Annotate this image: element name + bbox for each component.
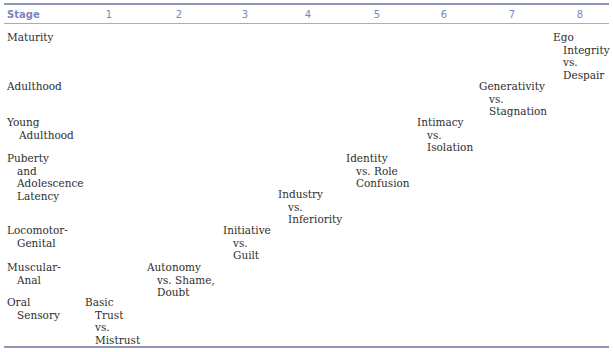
header-stage: Stage — [7, 9, 40, 20]
header-rule — [4, 23, 609, 24]
header-col-1: 1 — [106, 9, 112, 20]
header-col-7: 7 — [509, 9, 515, 20]
crisis-initiative: Initiative vs. Guilt — [223, 224, 271, 262]
stage-locomotor-genital: Locomotor- Genital — [7, 224, 68, 249]
header-col-8: 8 — [577, 9, 583, 20]
stage-young-adulthood: Young Adulthood — [7, 116, 74, 141]
stage-puberty-latency: Puberty and Adolescence Latency — [7, 152, 84, 202]
header-col-3: 3 — [242, 9, 248, 20]
crisis-basic-trust: Basic Trust vs. Mistrust — [85, 296, 140, 346]
crisis-generativity: Generativity vs. Stagnation — [479, 80, 547, 118]
crisis-industry: Industry vs. Inferiority — [278, 188, 342, 226]
crisis-autonomy: Autonomy vs. Shame, Doubt — [147, 261, 215, 299]
stage-muscular-anal: Muscular- Anal — [7, 261, 61, 286]
stage-maturity: Maturity — [7, 31, 54, 44]
header-col-4: 4 — [305, 9, 311, 20]
crisis-identity: Identity vs. Role Confusion — [346, 152, 410, 190]
table-bottom-rule — [4, 346, 609, 348]
stage-adulthood: Adulthood — [7, 80, 62, 93]
table-top-rule — [4, 3, 609, 5]
crisis-intimacy: Intimacy vs. Isolation — [417, 116, 473, 154]
crisis-ego-integrity: Ego Integrity vs. Despair — [553, 31, 610, 81]
header-col-5: 5 — [374, 9, 380, 20]
header-col-2: 2 — [176, 9, 182, 20]
stage-oral-sensory: Oral Sensory — [7, 296, 60, 321]
header-col-6: 6 — [441, 9, 447, 20]
